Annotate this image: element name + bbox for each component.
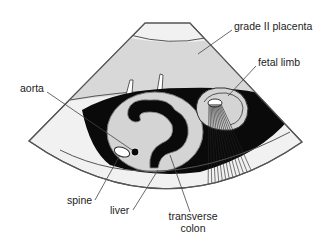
label-liver: liver bbox=[110, 204, 129, 216]
label-aorta: aorta bbox=[20, 82, 44, 94]
aorta bbox=[131, 148, 139, 156]
label-transverse-colon-line2: colon bbox=[163, 222, 223, 234]
label-transverse-colon: transverse colon bbox=[163, 210, 223, 234]
label-spine: spine bbox=[67, 194, 92, 206]
label-fetal-limb: fetal limb bbox=[258, 56, 300, 68]
ultrasound-diagram: grade II placenta fetal limb aorta spine… bbox=[0, 0, 329, 250]
label-transverse-colon-line1: transverse bbox=[163, 210, 223, 222]
label-grade-ii-placenta: grade II placenta bbox=[234, 20, 312, 32]
